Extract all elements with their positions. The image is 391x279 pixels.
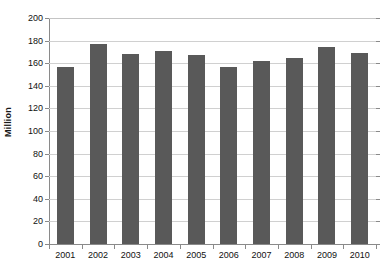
x-axis-tick <box>311 245 312 249</box>
x-axis-tick-label: 2008 <box>278 250 311 261</box>
y-axis-tick-label: 0 <box>38 239 43 249</box>
y-axis-tick-label: 100 <box>28 126 43 136</box>
y-axis-tick <box>45 18 49 19</box>
bar <box>122 54 139 244</box>
gridline <box>49 18 376 19</box>
y-axis-tick <box>45 199 49 200</box>
bar <box>253 61 270 244</box>
y-axis-tick-label: 180 <box>28 36 43 46</box>
y-axis-tick-label: 60 <box>33 171 43 181</box>
y-axis-tick-right <box>376 199 380 200</box>
y-axis-tick-right <box>376 154 380 155</box>
y-axis-tick <box>45 176 49 177</box>
y-axis-tick <box>45 86 49 87</box>
x-axis-tick-label: 2010 <box>343 250 376 261</box>
y-axis-tick-label: 40 <box>33 194 43 204</box>
y-axis-tick <box>45 221 49 222</box>
y-axis-tick-label: 120 <box>28 103 43 113</box>
x-axis-tick <box>376 245 377 249</box>
y-axis-title-text: Million <box>3 107 13 137</box>
x-axis-tick <box>114 245 115 249</box>
y-axis-tick-right <box>376 176 380 177</box>
y-axis-tick <box>45 41 49 42</box>
x-axis-tick-label: 2006 <box>213 250 246 261</box>
y-axis-tick-right <box>376 221 380 222</box>
y-axis-tick-right <box>376 63 380 64</box>
y-axis-tick <box>45 63 49 64</box>
gridline <box>49 41 376 42</box>
bar <box>155 51 172 244</box>
x-axis-tick-label: 2003 <box>114 250 147 261</box>
x-axis-tick <box>49 245 50 249</box>
x-axis-tick-label: 2007 <box>245 250 278 261</box>
bar <box>188 55 205 244</box>
x-axis-tick <box>180 245 181 249</box>
x-axis-tick-label: 2001 <box>49 250 82 261</box>
plot-area <box>49 18 376 244</box>
y-axis-tick-right <box>376 86 380 87</box>
bar <box>286 58 303 244</box>
y-axis-tick <box>45 131 49 132</box>
y-axis-tick-label: 160 <box>28 58 43 68</box>
bar <box>318 47 335 244</box>
bar-chart: Million 020406080100120140160180200 2001… <box>0 0 391 279</box>
x-axis-tick <box>343 245 344 249</box>
x-axis-tick-label: 2005 <box>180 250 213 261</box>
y-axis-tick <box>45 154 49 155</box>
y-axis-tick-right <box>376 41 380 42</box>
y-axis-tick-label: 80 <box>33 149 43 159</box>
x-axis-tick <box>213 245 214 249</box>
x-axis-tick <box>147 245 148 249</box>
x-axis-tick-labels: 2001200220032004200520062007200820092010 <box>49 250 376 266</box>
y-axis-tick-label: 140 <box>28 81 43 91</box>
y-axis-tick <box>45 108 49 109</box>
x-axis-tick <box>82 245 83 249</box>
bar <box>220 67 237 244</box>
x-axis-tick-label: 2002 <box>82 250 115 261</box>
y-axis-tick-right <box>376 131 380 132</box>
bar <box>57 67 74 244</box>
x-axis-tick-label: 2004 <box>147 250 180 261</box>
y-axis-tick-right <box>376 18 380 19</box>
x-axis-tick <box>278 245 279 249</box>
y-axis-tick-label: 200 <box>28 13 43 23</box>
bar <box>351 53 368 244</box>
bar <box>90 44 107 244</box>
y-axis-tick-right <box>376 108 380 109</box>
x-axis-tick <box>245 245 246 249</box>
y-axis-title: Million <box>0 0 16 244</box>
x-axis-tick-label: 2009 <box>311 250 344 261</box>
y-axis-tick-label: 20 <box>33 216 43 226</box>
y-axis-tick-labels: 020406080100120140160180200 <box>16 0 46 258</box>
